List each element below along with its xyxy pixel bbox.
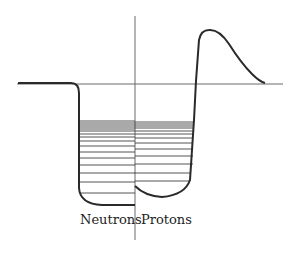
- proton-energy-levels: [135, 122, 193, 181]
- neutron-energy-levels: [80, 121, 135, 193]
- nuclear-potential-diagram: Neutrons Protons: [0, 0, 294, 258]
- neutrons-label: Neutrons: [80, 212, 142, 227]
- proton-potential-curve: [135, 30, 265, 197]
- neutron-potential-curve: [18, 83, 135, 205]
- protons-label: Protons: [141, 212, 192, 227]
